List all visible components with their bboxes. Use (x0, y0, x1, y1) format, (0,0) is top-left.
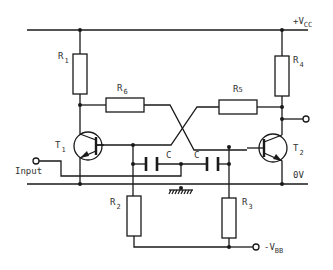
vcc-label: +VCC (293, 16, 312, 29)
resistor-r2 (127, 196, 141, 236)
r3-label: R3 (242, 197, 253, 211)
zero-volt-label: 0V (293, 170, 304, 180)
input-terminal[interactable] (33, 158, 39, 164)
resistor-r3 (222, 198, 236, 238)
resistor-r6 (106, 98, 144, 112)
c-left-label: C (166, 150, 171, 160)
r1-label: R1 (58, 51, 69, 65)
t1-label: T1 (55, 140, 66, 154)
t2-emitter (264, 153, 282, 184)
r4-label: R4 (293, 55, 304, 69)
wire (134, 236, 229, 247)
resistor-r5 (219, 100, 257, 114)
t2-label: T2 (293, 143, 304, 157)
cross-wire-r5 (95, 107, 219, 145)
c-right-label: C (194, 150, 199, 160)
junction-dot (78, 182, 82, 186)
t1-emitter-arrow-icon (80, 151, 89, 158)
t2-emitter-arrow-icon (273, 154, 282, 161)
vbb-label: -VBB (264, 242, 283, 255)
t1-collector (80, 134, 96, 140)
resistor-r1 (73, 54, 87, 94)
circuit-diagram: +VCC R1 R6 R4 R5 T1 T2 C C (0, 0, 333, 270)
resistor-r4 (275, 56, 289, 96)
junction-dot (280, 182, 284, 186)
output-terminal[interactable] (303, 116, 309, 122)
input-wire (39, 161, 181, 176)
r6-label: R6 (117, 83, 128, 96)
vbb-terminal[interactable] (253, 244, 259, 250)
r5-label: R5 (233, 84, 243, 94)
junction-dot (227, 162, 231, 166)
r2-label: R2 (110, 197, 121, 211)
input-label: Input (15, 166, 42, 176)
